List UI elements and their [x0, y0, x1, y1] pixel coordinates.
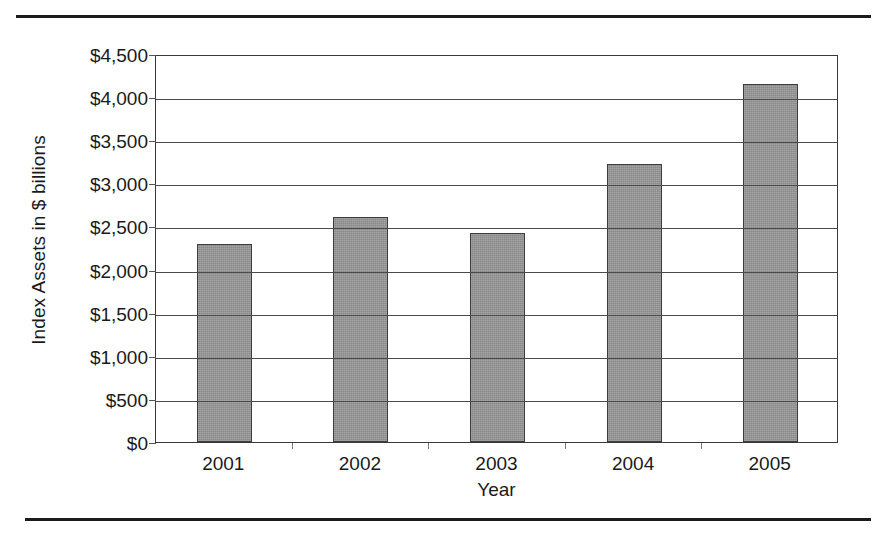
y-axis-tick-label: $4,500	[56, 46, 148, 65]
y-axis-tick-label: $1,000	[56, 348, 148, 367]
y-axis-tick-mark	[149, 400, 156, 401]
y-axis-tick-label: $3,000	[56, 175, 148, 194]
bar-2002	[333, 217, 388, 442]
gridline	[156, 99, 837, 100]
bar-2001	[197, 244, 252, 442]
y-axis-tick-label: $0	[56, 434, 148, 453]
x-axis-tick-mark	[701, 443, 702, 449]
y-axis-tick-labels: $0$500$1,000$1,500$2,000$2,500$3,000$3,5…	[56, 0, 148, 538]
y-axis-tick-mark	[149, 98, 156, 99]
x-axis-tick-mark	[565, 443, 566, 449]
x-axis-tick-label: 2004	[565, 452, 702, 476]
x-axis-title: Year	[155, 479, 838, 501]
x-axis-tick-labels: 20012002200320042005	[155, 452, 838, 478]
gridline	[156, 315, 837, 316]
y-axis-tick-label: $500	[56, 391, 148, 410]
bars-container	[156, 56, 837, 442]
x-axis-tick-mark	[428, 443, 429, 449]
y-axis-tick-label: $2,500	[56, 218, 148, 237]
y-axis-tick-label: $4,000	[56, 89, 148, 108]
gridline	[156, 272, 837, 273]
gridline	[156, 185, 837, 186]
x-axis-tick-label: 2003	[428, 452, 565, 476]
y-axis-tick-label: $1,500	[56, 305, 148, 324]
x-axis-tick-label: 2002	[292, 452, 429, 476]
y-axis-tick-label: $2,000	[56, 262, 148, 281]
y-axis-tick-mark	[149, 271, 156, 272]
bottom-horizontal-rule	[25, 518, 871, 521]
y-axis-tick-mark	[149, 141, 156, 142]
gridline	[156, 228, 837, 229]
x-axis-tick-mark	[292, 443, 293, 449]
y-axis-tick-label: $3,500	[56, 132, 148, 151]
bar-2003	[470, 233, 525, 442]
x-axis-tick-label: 2005	[701, 452, 838, 476]
y-axis-tick-mark	[149, 357, 156, 358]
y-axis-tick-mark	[149, 55, 156, 56]
y-axis-tick-mark	[149, 227, 156, 228]
gridline	[156, 142, 837, 143]
y-axis-title: Index Assets in $ billions	[26, 40, 52, 440]
plot-area	[155, 55, 838, 443]
bar-2005	[743, 84, 798, 442]
gridline	[156, 358, 837, 359]
gridline	[156, 401, 837, 402]
bar-chart-figure: Index Assets in $ billions $0$500$1,000$…	[0, 0, 883, 538]
y-axis-tick-mark	[149, 314, 156, 315]
x-axis-tick-label: 2001	[155, 452, 292, 476]
y-axis-tick-mark	[149, 184, 156, 185]
y-axis-tick-mark	[149, 443, 156, 444]
